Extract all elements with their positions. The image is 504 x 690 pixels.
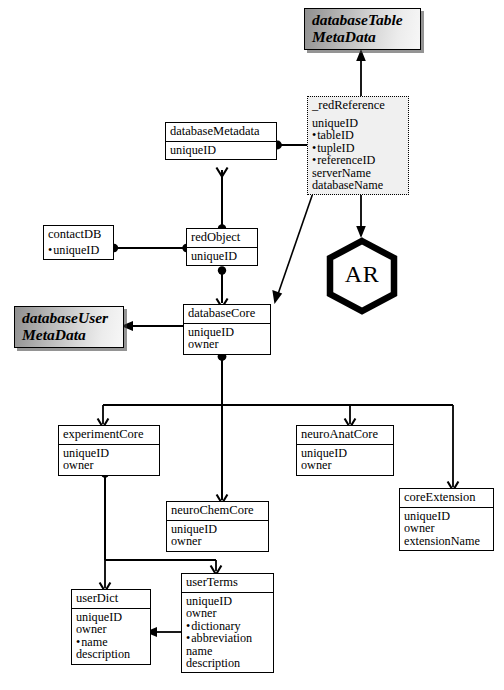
process-node-ar[interactable]: AR [325,237,399,315]
entity-neurochemcore[interactable]: neuroChemCore uniqueID owner [166,501,269,552]
entity-title: _redReference [308,97,408,115]
meta-line-1: databaseUser [22,310,117,327]
attribute: uniqueID [191,250,253,262]
attribute: databaseName [312,179,404,191]
attribute: owner [76,623,146,635]
entity-attributes: uniqueID owner name description [72,609,150,664]
entity-attributes: uniqueID tableID tupleID referenceID ser… [308,115,408,195]
entity-title: databaseCore [184,305,270,323]
entity-redobject[interactable]: redObject uniqueID [186,228,258,266]
attribute: extensionName [404,535,489,547]
entity-title: coreExtension [400,489,493,507]
entity-experimentcore[interactable]: experimentCore uniqueID owner [58,425,160,476]
entity-userdict[interactable]: userDict uniqueID owner name description [71,589,151,665]
edge-databasemetadata-to-redobject [216,168,227,233]
meta-line-2: MetaData [22,327,117,344]
entity-title: databaseMetadata [166,123,276,141]
meta-line-2: MetaData [312,29,414,46]
edge-contactdb-to-redobject [110,244,191,252]
attribute: owner [171,535,264,547]
entity-title: userTerms [182,574,273,592]
entity-contactdb[interactable]: contactDB uniqueID [43,225,114,260]
entity-title: experimentCore [59,426,159,444]
meta-line-1: databaseTable [312,12,414,29]
entity-coreextension[interactable]: coreExtension uniqueID owner extensionNa… [399,488,494,551]
entity-attributes: uniqueID owner [59,445,159,475]
meta-box-databaseusermetadata[interactable]: databaseUser MetaData [14,306,124,348]
entity-databasemetadata[interactable]: databaseMetadata uniqueID [165,122,277,160]
attribute: owner [186,607,269,619]
entity-redreference[interactable]: _redReference uniqueID tableID tupleID r… [307,96,409,195]
attribute: description [76,648,146,660]
attribute: owner [404,522,489,534]
entity-userterms[interactable]: userTerms uniqueID owner dictionary abbr… [181,573,274,673]
attribute: owner [188,338,266,350]
edge-redobject-to-databasecore [216,266,227,307]
attribute: owner [301,459,389,471]
entity-attributes: uniqueID owner [167,521,268,551]
entity-databasecore[interactable]: databaseCore uniqueID owner [183,304,271,355]
entity-attributes: uniqueID owner extensionName [400,508,493,550]
edge-databasecore-to-databaseusermetadata [121,321,183,331]
attribute-key: uniqueID [48,244,109,256]
entity-title: neuroChemCore [167,502,268,520]
edge-redreference-to-ar [356,190,366,238]
er-diagram-canvas: databaseTable MetaData databaseUser Meta… [0,0,504,690]
entity-attributes: uniqueID [44,244,113,259]
entity-title: contactDB [44,226,113,244]
attribute: description [186,657,269,669]
attribute-key: abbreviation [186,632,269,644]
entity-attributes: uniqueID [166,142,276,159]
entity-title: neuroAnatCore [297,426,393,444]
entity-attributes: uniqueID owner [297,445,393,475]
entity-attributes: uniqueID owner [184,324,270,354]
attribute-key: referenceID [312,154,404,166]
attribute: uniqueID [170,144,272,156]
entity-title: redObject [187,229,257,247]
entity-neuroanatcore[interactable]: neuroAnatCore uniqueID owner [296,425,394,476]
entity-attributes: uniqueID owner dictionary abbreviation n… [182,593,273,673]
entity-attributes: uniqueID [187,248,257,265]
attribute-key: tableID [312,129,404,141]
edge-redreference-to-databasetablemetadata [356,49,366,96]
process-label: AR [325,261,399,288]
entity-title: userDict [72,590,150,608]
meta-box-databasetablemetadata[interactable]: databaseTable MetaData [304,8,421,50]
edge-redreference-to-databasecore-diagonal [272,190,314,304]
attribute: owner [63,459,155,471]
